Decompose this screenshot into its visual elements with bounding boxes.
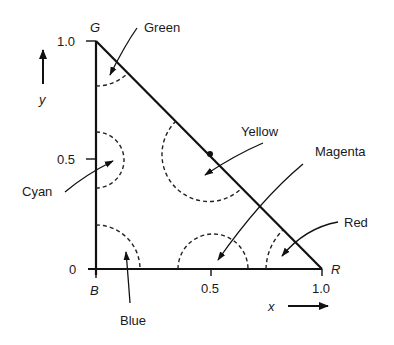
yellow-region-arc [162,121,242,202]
x-tick-label-1: 1.0 [312,281,330,296]
label-yellow: Yellow [241,124,279,139]
y-tick-label-05: 0.5 [57,152,75,167]
y-axis-label: y [38,92,47,107]
label-red: Red [344,215,368,230]
y-tick-label-0: 0 [69,262,76,277]
x-tick-label-05: 0.5 [201,281,219,296]
label-cyan: Cyan [22,184,52,199]
cyan-region-arc [96,132,124,188]
y-tick-label-1: 1.0 [57,34,75,49]
blue-region-arc [96,225,140,269]
green-region-arc [96,73,128,86]
vertex-label-b: B [90,283,99,298]
blue-leader-arrow-icon [126,252,130,303]
x-axis-label: x [267,299,275,314]
color-triangle-diagram: 1.0 0.5 0 0.5 1.0 G B R y x Green Yellow… [0,0,394,345]
red-leader-arrow-icon [282,222,338,256]
label-green: Green [144,20,180,35]
vertex-label-g: G [90,20,100,35]
yellow-point-dot [207,151,213,157]
red-region-arc [266,230,283,269]
magenta-region-arc [178,234,248,269]
label-magenta: Magenta [315,144,366,159]
label-blue: Blue [120,313,146,328]
vertex-label-r: R [331,262,340,277]
